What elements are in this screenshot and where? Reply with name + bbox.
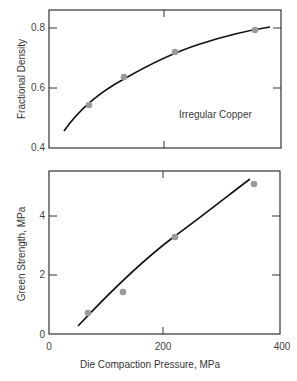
figure: 0.8 0.6 0.4 Fractional Density Irregular…	[0, 0, 297, 381]
bottom-data-point	[251, 181, 258, 188]
top-data-point	[86, 102, 93, 109]
top-data-point	[121, 74, 128, 81]
top-ytick-label-0.8: 0.8	[31, 22, 45, 33]
bottom-data-point	[172, 234, 179, 241]
bottom-fit-curve	[78, 179, 250, 326]
top-panel: 0.8 0.6 0.4 Fractional Density Irregular…	[16, 10, 281, 153]
top-data-point	[252, 27, 259, 34]
xlabel: Die Compaction Pressure, MPa	[80, 359, 220, 370]
top-ylabel: Fractional Density	[16, 39, 27, 119]
bottom-panel: 4 2 0 0 200 400 Green Strength, MPa Die …	[16, 171, 291, 370]
bottom-ylabel: Green Strength, MPa	[16, 206, 27, 301]
xtick-label-0: 0	[46, 341, 52, 352]
bottom-ytick-label-2: 2	[39, 269, 45, 280]
annotation-irregular-copper: Irregular Copper	[179, 109, 252, 120]
xtick-label-200: 200	[155, 341, 172, 352]
top-ytick-label-0.6: 0.6	[31, 82, 45, 93]
xtick-label-400: 400	[274, 341, 291, 352]
top-ytick-label-0.4: 0.4	[31, 142, 45, 153]
bottom-data-point	[85, 310, 92, 317]
top-data-point	[172, 49, 179, 56]
bottom-data-point	[120, 289, 127, 296]
bottom-ytick-label-4: 4	[39, 210, 45, 221]
bottom-ytick-label-0: 0	[39, 329, 45, 340]
bottom-plot-frame	[49, 171, 280, 334]
